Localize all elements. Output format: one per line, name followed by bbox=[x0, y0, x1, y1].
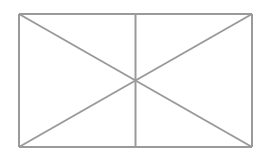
placeholder-svg-canvas bbox=[0, 0, 267, 163]
placeholder-graphic bbox=[0, 0, 267, 163]
